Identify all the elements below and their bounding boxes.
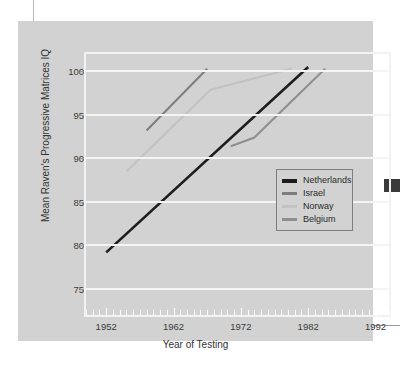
x-minor-tick [342,310,343,315]
x-tick-label: 1972 [230,321,251,332]
x-major-tick [174,308,175,317]
x-major-tick [376,308,377,317]
x-major-tick [308,308,309,317]
x-minor-tick [362,310,363,315]
x-minor-tick [180,310,181,315]
x-minor-tick [234,310,235,315]
x-axis-tick-labels: 19521962197219821992 [18,321,373,335]
x-minor-tick [160,310,161,315]
legend-label: Belgium [303,215,336,224]
x-minor-tick [187,310,188,315]
x-tick-label: 1962 [163,321,184,332]
legend-item-netherlands: Netherlands [282,174,352,187]
x-major-tick [241,308,242,317]
x-minor-tick [227,310,228,315]
x-minor-tick [301,310,302,315]
series-line-norway [126,69,291,172]
x-minor-tick [194,310,195,315]
legend-swatch [282,205,297,208]
legend-item-belgium: Belgium [282,213,352,226]
x-minor-tick [167,310,168,315]
x-minor-tick [288,310,289,315]
legend-swatch [282,179,297,183]
x-minor-tick [133,310,134,315]
x-minor-tick [254,310,255,315]
gridline [86,114,389,116]
x-tick-label: 1992 [365,321,386,332]
x-minor-tick [86,310,87,315]
x-minor-tick [221,310,222,315]
x-minor-tick [349,310,350,315]
x-minor-tick [140,310,141,315]
y-axis-title: Mean Raven's Progressive Matrices IQ [40,21,51,251]
legend-swatch [282,192,297,195]
x-minor-tick [295,310,296,315]
x-minor-tick [126,310,127,315]
page-margin-rule-top [33,0,34,22]
x-axis-title: Year of Testing [18,339,373,350]
legend-label: Israel [303,189,325,198]
gridline [86,288,389,290]
x-minor-tick [113,310,114,315]
gridline [86,70,389,72]
x-tick-label: 1952 [96,321,117,332]
legend-label: Norway [303,202,334,211]
x-minor-tick [93,310,94,315]
x-minor-tick [147,310,148,315]
x-minor-tick [389,310,390,315]
x-minor-tick [120,310,121,315]
x-minor-tick [281,310,282,315]
legend-label: Netherlands [303,176,352,185]
x-minor-tick [315,310,316,315]
chart-legend: NetherlandsIsraelNorwayBelgium [276,169,353,231]
x-minor-tick [207,310,208,315]
x-tick-label: 1982 [298,321,319,332]
x-minor-tick [355,310,356,315]
x-minor-tick [268,310,269,315]
x-minor-tick [335,310,336,315]
figure-panel: Mean Raven's Progressive Matrices IQ 758… [18,21,373,341]
x-minor-tick [322,310,323,315]
legend-swatch [282,218,297,221]
x-minor-tick [382,310,383,315]
x-minor-tick [214,310,215,315]
x-major-tick [106,308,107,317]
x-axis-ticks [84,310,391,318]
legend-item-israel: Israel [282,187,352,200]
x-minor-tick [99,310,100,315]
x-minor-tick [328,310,329,315]
x-minor-tick [369,310,370,315]
x-minor-tick [275,310,276,315]
x-minor-tick [261,310,262,315]
gridline [86,244,389,246]
gridline [86,157,389,159]
legend-item-norway: Norway [282,200,352,213]
x-minor-tick [200,310,201,315]
x-minor-tick [248,310,249,315]
y-axis-tick-labels: 7580859095100 [56,52,84,317]
x-minor-tick [153,310,154,315]
